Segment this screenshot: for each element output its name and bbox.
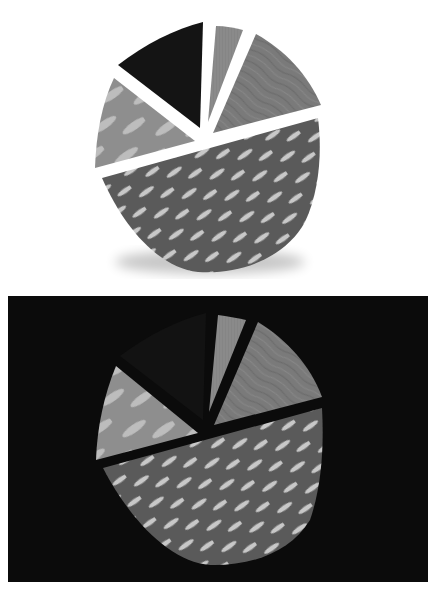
pie-chart-graphic xyxy=(0,0,440,290)
pie-chart-panel-white: Pie chart on white background xyxy=(0,0,440,290)
pie-chart-graphic xyxy=(8,296,428,582)
pie-chart-panel-black: Pie chart on black background xyxy=(8,296,428,582)
